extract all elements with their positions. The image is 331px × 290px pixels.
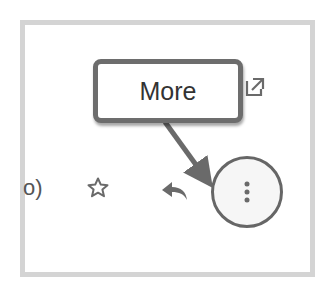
callout-label: More [140,77,197,106]
reply-button[interactable] [160,180,190,202]
more-options-button[interactable] [211,156,283,228]
star-button[interactable] [86,176,110,200]
star-icon [86,176,110,200]
truncated-label: o) [23,176,43,200]
open-in-new-window-button[interactable] [244,76,266,98]
more-tooltip-callout: More [93,59,243,123]
more-vert-icon [243,180,251,204]
open-in-new-window-icon [244,76,266,98]
reply-icon [160,180,190,202]
